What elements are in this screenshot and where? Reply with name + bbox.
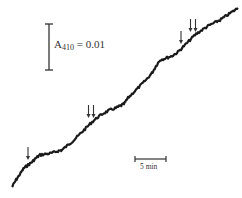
absorbance-scale-label: A410 = 0.01 [54,38,105,52]
absorbance-scale-bar [45,24,53,70]
arrow-down-icon [92,114,96,118]
arrow-down-icon [26,156,30,160]
addition-arrows [26,19,198,160]
time-scale-label: 5 min [140,162,157,171]
absorbance-trace-line [12,8,238,187]
arrow-down-icon [87,114,91,118]
arrow-down-icon [189,28,193,32]
arrow-down-icon [179,40,183,44]
absorbance-trace-figure [0,0,242,198]
arrow-down-icon [194,28,198,32]
